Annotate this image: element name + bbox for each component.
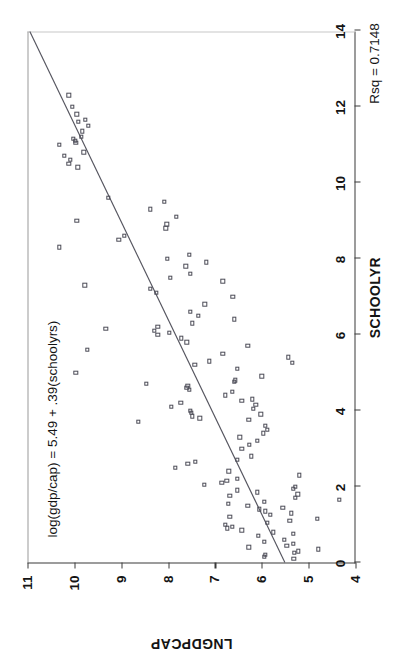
scatter-point	[103, 326, 107, 330]
scatter-point	[82, 282, 86, 286]
scatter-point	[74, 218, 78, 222]
scatter-point	[223, 393, 227, 397]
scatter-point	[122, 233, 126, 237]
scatter-point	[230, 294, 234, 298]
scatter-point	[268, 512, 272, 516]
scatter-point	[257, 507, 261, 511]
y-tick	[121, 562, 122, 568]
scatter-point	[116, 237, 120, 241]
x-tick-label: 12	[332, 99, 347, 114]
scatter-point	[188, 309, 192, 313]
regression-line	[27, 31, 354, 562]
scatter-point	[148, 206, 152, 210]
x-tick-label: 10	[332, 175, 347, 190]
scatter-point	[254, 438, 258, 442]
scatter-point	[297, 472, 301, 476]
scatter-point	[232, 317, 236, 321]
scatter-point	[239, 446, 243, 450]
scatter-point	[174, 214, 178, 218]
scatter-point	[235, 476, 239, 480]
scatter-point	[202, 301, 206, 305]
plot-frame-right-edge	[27, 31, 354, 32]
scatter-point	[82, 117, 86, 121]
scatter-point	[245, 503, 249, 507]
scatter-point	[154, 290, 158, 294]
scatter-point	[263, 423, 267, 427]
scatter-point	[185, 461, 189, 465]
x-tick	[354, 105, 360, 106]
x-tick	[354, 409, 360, 410]
x-tick-label: 8	[332, 255, 347, 263]
scatter-point	[71, 136, 75, 140]
y-tick	[214, 562, 215, 568]
y-tick-label: 9	[113, 575, 128, 605]
scatter-point	[265, 520, 269, 524]
scatter-point	[220, 351, 224, 355]
scatter-point	[204, 260, 208, 264]
scatter-point	[75, 165, 79, 169]
plot-area	[27, 31, 355, 563]
scatter-point	[178, 336, 182, 340]
scatter-point	[219, 480, 223, 484]
scatter-point	[246, 417, 250, 421]
y-tick-label: 4	[348, 575, 363, 605]
scatter-point	[86, 123, 90, 127]
scatter-point	[66, 92, 70, 96]
scatter-point	[227, 514, 231, 518]
x-axis-title: SCHOOLYR	[366, 256, 382, 337]
scatter-point	[74, 111, 78, 115]
scatter-point	[256, 533, 260, 537]
scatter-point	[230, 524, 234, 528]
scatter-point	[280, 505, 284, 509]
scatter-point	[201, 482, 205, 486]
scatter-point	[262, 509, 266, 513]
scatter-point	[296, 548, 300, 552]
scatter-point	[261, 499, 265, 503]
scatter-point	[220, 279, 224, 283]
scatter-point	[75, 119, 79, 123]
scatter-point	[249, 453, 253, 457]
scatter-point	[69, 104, 73, 108]
scatter-point	[193, 459, 197, 463]
scatter-point	[286, 355, 290, 359]
scatter-point	[261, 539, 265, 543]
scatter-point	[290, 360, 294, 364]
x-tick	[354, 333, 360, 334]
scatter-point	[224, 478, 228, 482]
scatter-point	[315, 547, 319, 551]
r-squared-annotation: Rsq = 0.7148	[366, 23, 381, 104]
y-tick	[355, 562, 356, 568]
scatter-point	[188, 271, 192, 275]
scatter-point	[336, 497, 340, 501]
scatter-point	[79, 134, 83, 138]
y-tick-label: 10	[66, 575, 81, 605]
scatter-point	[85, 347, 89, 351]
x-tick-label: 2	[332, 483, 347, 491]
scatter-point	[190, 320, 194, 324]
scatter-point	[290, 531, 294, 535]
scatter-point	[162, 199, 166, 203]
scatter-point	[73, 370, 77, 374]
scatter-point	[184, 339, 188, 343]
y-tick-label: 5	[301, 575, 316, 605]
scatter-point	[246, 442, 250, 446]
scatter-point	[196, 313, 200, 317]
scatter-point	[289, 510, 293, 514]
y-tick	[261, 562, 262, 568]
scatter-point	[61, 153, 65, 157]
scatter-point	[207, 358, 211, 362]
x-tick	[354, 181, 360, 182]
scatter-point	[136, 419, 140, 423]
scatter-point	[287, 518, 291, 522]
y-tick-label: 8	[160, 575, 175, 605]
scatter-point	[232, 377, 236, 381]
scatter-point	[57, 142, 61, 146]
scatter-point	[237, 434, 241, 438]
scatter-point	[284, 543, 288, 547]
scatter-point	[293, 484, 297, 488]
scatter-point	[235, 366, 239, 370]
scatter-point	[143, 381, 147, 385]
scatter-point	[68, 157, 72, 161]
